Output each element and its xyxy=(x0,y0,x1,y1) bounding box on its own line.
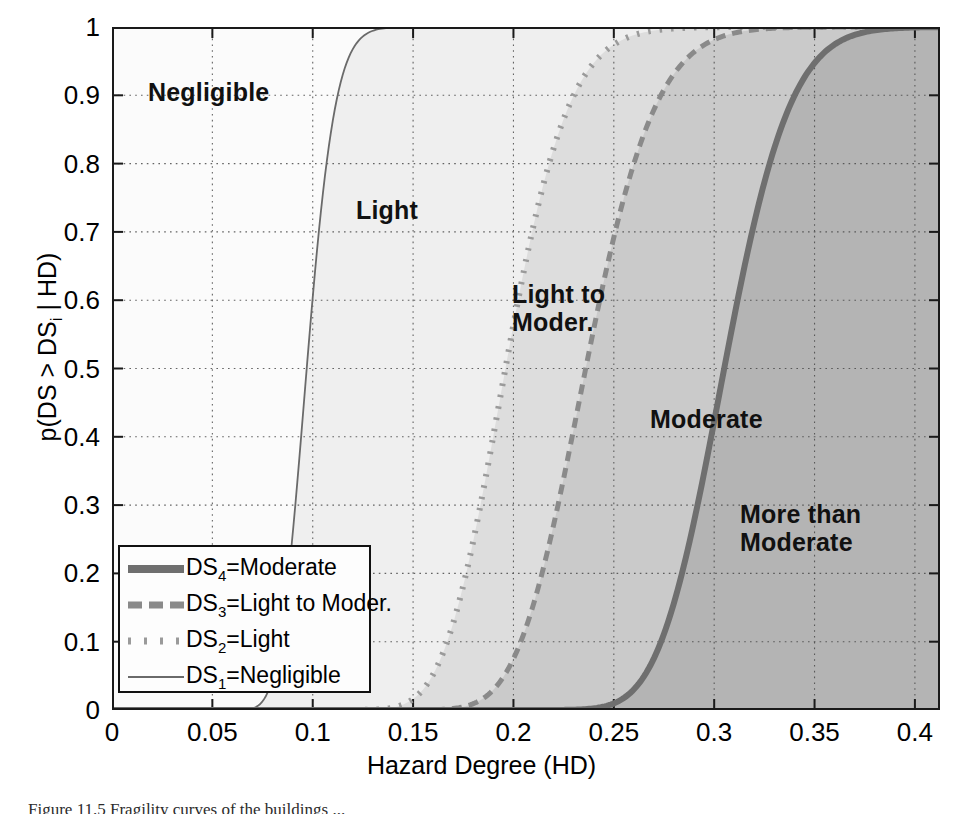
region-label-light: Light xyxy=(356,196,418,224)
figure-caption: Figure 11.5 Fragility curves of the buil… xyxy=(28,800,928,814)
legend-label: DS1=Negligible xyxy=(186,662,341,692)
y-tick-label: 0.2 xyxy=(8,560,100,586)
y-axis-label-main: p(DS > DS xyxy=(33,321,61,441)
legend-label-prefix: DS xyxy=(186,590,218,616)
legend-entry[interactable]: DS1=Negligible xyxy=(120,659,369,695)
y-axis-label-tail: | HD) xyxy=(33,253,61,318)
y-tick-label: 0.9 xyxy=(8,82,100,108)
legend-entry[interactable]: DS2=Light xyxy=(120,623,369,659)
x-tick-label: 0.4 xyxy=(855,719,963,745)
region-label-light-to-moderate: Light to Moder. xyxy=(512,280,605,336)
legend-label: DS4=Moderate xyxy=(186,554,337,584)
legend-entry[interactable]: DS4=Moderate xyxy=(120,551,369,587)
legend-line-sample xyxy=(126,587,186,623)
legend-label: DS3=Light to Moder. xyxy=(186,590,392,620)
legend-label-suffix: =Negligible xyxy=(226,662,340,688)
legend-label-suffix: =Moderate xyxy=(226,554,337,580)
legend-label-prefix: DS xyxy=(186,626,218,652)
y-tick-label: 0.1 xyxy=(8,629,100,655)
y-tick-label: 1 xyxy=(8,14,100,40)
legend-line-sample xyxy=(126,623,186,659)
legend-label-suffix: =Light to Moder. xyxy=(226,590,392,616)
legend-label: DS2=Light xyxy=(186,626,290,656)
legend-label-prefix: DS xyxy=(186,662,218,688)
legend-line-sample xyxy=(126,659,186,695)
legend-label-prefix: DS xyxy=(186,554,218,580)
legend-box[interactable]: DS4=ModerateDS3=Light to Moder.DS2=Light… xyxy=(118,545,371,693)
legend-label-suffix: =Light xyxy=(226,626,289,652)
legend-entry[interactable]: DS3=Light to Moder. xyxy=(120,587,369,623)
region-label-negligible: Negligible xyxy=(148,78,269,106)
y-axis-label: p(DS > DSi | HD) xyxy=(33,137,67,557)
y-axis-label-subscript: i xyxy=(47,317,66,321)
region-label-moderate: Moderate xyxy=(650,405,763,433)
figure-root: 00.10.20.30.40.50.60.70.80.91 00.050.10.… xyxy=(0,0,963,814)
x-axis-label: Hazard Degree (HD) xyxy=(0,751,963,780)
region-label-more-than-moderate: More than Moderate xyxy=(740,500,861,556)
legend-line-sample xyxy=(126,551,186,587)
